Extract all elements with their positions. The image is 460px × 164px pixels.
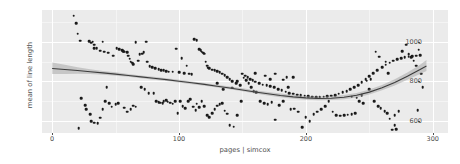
x-axis-tick-mark [433,133,434,135]
x-axis-label: pages | simcox [42,146,448,154]
x-axis-tick-mark [306,133,307,135]
smooth-trend-layer [42,10,448,133]
confidence-ribbon [52,60,426,100]
y-axis-label: mean of line length [26,15,34,135]
y-axis-tick-mark [418,42,420,43]
x-axis-tick-mark [179,133,180,135]
x-axis-tick-mark [52,133,53,135]
y-axis-tick-label: 600 [410,117,422,125]
scatter-plot-figure: 6008001000 0100200300 mean of line lengt… [0,0,460,164]
plot-panel [42,10,448,133]
x-axis-tick-label: 200 [300,135,312,143]
x-axis-tick-label: 300 [427,135,439,143]
x-axis-tick-label: 100 [173,135,185,143]
y-axis-tick-mark [418,81,420,82]
y-axis-tick-mark [418,121,420,122]
x-axis-tick-label: 0 [50,135,54,143]
y-axis-tick-label: 800 [410,77,422,85]
